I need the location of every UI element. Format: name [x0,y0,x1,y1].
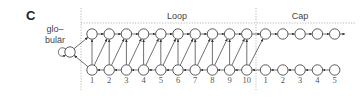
bottom-state-node [173,65,183,75]
position-label: 9 [227,75,231,85]
diagonal-transition-arrow [232,39,245,65]
diagonal-transition-arrow [180,39,193,65]
globular-to-loop-arrow [74,37,88,48]
top-state-node [138,29,148,39]
position-label: 7 [193,75,197,85]
position-label: 5 [159,75,163,85]
position-label: 10 [243,75,252,85]
top-state-node [121,29,131,39]
bottom-state-node [87,65,97,75]
section-title-loop: Loop [167,11,187,21]
top-state-node [242,29,252,39]
diagonal-transition-arrow [94,39,107,65]
top-state-node [207,29,217,39]
top-state-node [156,29,166,39]
diagonal-transition-arrow [215,39,228,65]
top-state-node [260,29,270,39]
position-label: 4 [141,75,146,85]
bottom-state-node [121,65,131,75]
section-title-cap: Cap [292,11,309,21]
position-label: 2 [281,75,285,85]
bottom-state-node [224,65,234,75]
position-label: 2 [107,75,111,85]
top-state-node [224,29,234,39]
diagonal-transition-arrow [249,39,263,66]
top-state-node [104,29,114,39]
position-label: 5 [333,75,337,85]
position-label: 3 [124,75,128,85]
position-label: 3 [298,75,302,85]
position-label: 1 [90,75,94,85]
globular-label-line2: bulär [45,35,65,45]
diagonal-transition-arrow [163,39,176,65]
bottom-state-node [156,65,166,75]
state-diagram: C glo– bulär Loop Cap 1234567891012345 [0,0,361,101]
bottom-state-node [138,65,148,75]
globular-state-node [65,47,75,57]
top-state-node [312,29,322,39]
position-label: 8 [210,75,214,85]
globular-label-line1: glo– [46,24,63,34]
diagonal-transition-arrow [146,39,159,65]
top-state-node [330,29,340,39]
diagonal-transition-arrow [197,39,210,65]
bottom-state-node [260,65,270,75]
bottom-state-node [104,65,114,75]
top-state-node [173,29,183,39]
top-state-node [87,29,97,39]
bottom-state-node [330,65,340,75]
diagonal-transition-arrow [129,39,142,65]
bottom-state-node [278,65,288,75]
position-label: 6 [176,75,180,85]
top-state-node [190,29,200,39]
top-state-node [278,29,288,39]
bottom-state-node [295,65,305,75]
bottom-state-node [312,65,322,75]
bottom-state-node [242,65,252,75]
bottom-state-node [190,65,200,75]
bottom-state-node [207,65,217,75]
top-state-node [295,29,305,39]
position-label: 4 [315,75,320,85]
position-label: 1 [263,75,267,85]
panel-label: C [26,8,36,23]
diagonal-transition-arrow [111,39,124,65]
